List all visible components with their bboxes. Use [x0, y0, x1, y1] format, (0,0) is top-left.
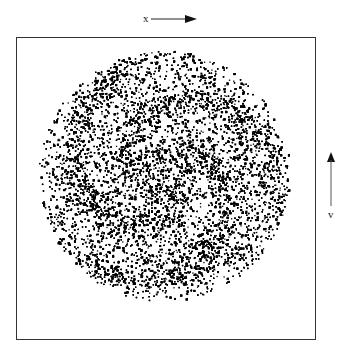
plot-frame: [16, 37, 316, 340]
v-axis-label: v: [328, 208, 334, 220]
phase-space-scatter: [17, 38, 315, 339]
v-axis-arrow-icon: [326, 152, 336, 206]
x-axis-arrow-icon: [151, 14, 197, 24]
x-axis-label: x: [143, 12, 149, 24]
